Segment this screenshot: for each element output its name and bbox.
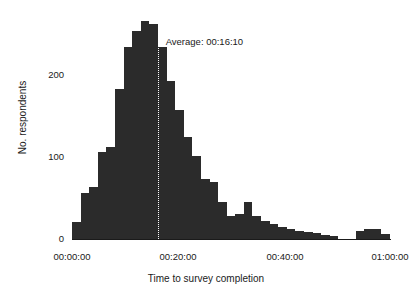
histogram-bar	[287, 229, 296, 239]
histogram-bar	[235, 214, 244, 239]
histogram-bar	[149, 24, 158, 239]
histogram-bar	[115, 89, 124, 239]
x-axis-line	[72, 239, 391, 240]
histogram-bar	[364, 229, 373, 239]
histogram-bar	[295, 231, 304, 239]
histogram-bar	[158, 47, 167, 239]
histogram-bar	[175, 110, 184, 239]
histogram-bar	[201, 179, 210, 239]
histogram-bar	[132, 31, 141, 239]
histogram-bar	[218, 202, 227, 239]
histogram-bar	[304, 232, 313, 239]
average-line	[158, 14, 159, 239]
histogram-bar	[167, 81, 176, 239]
histogram-chart: 200 100 0 No. respondents Average: 00:16…	[0, 0, 412, 297]
histogram-bar	[278, 227, 287, 240]
x-tick-2: 00:40:00	[267, 252, 304, 262]
y-tick-0: 0	[2, 234, 64, 244]
histogram-bars	[72, 14, 390, 239]
x-tick-3: 01:00:00	[372, 252, 409, 262]
histogram-bar	[210, 182, 219, 239]
histogram-bar	[98, 152, 107, 240]
x-tick-1: 00:20:00	[160, 252, 197, 262]
histogram-bar	[227, 216, 236, 239]
y-tick-100: 100	[2, 152, 64, 162]
histogram-bar	[72, 222, 81, 239]
plot-area	[72, 14, 390, 239]
histogram-bar	[81, 193, 90, 239]
histogram-bar	[252, 216, 261, 239]
histogram-bar	[89, 187, 98, 239]
y-axis-title: No. respondents	[17, 48, 28, 188]
x-axis-title: Time to survey completion	[0, 273, 412, 284]
histogram-bar	[192, 156, 201, 239]
histogram-bar	[356, 231, 365, 239]
histogram-bar	[373, 229, 382, 239]
y-tick-200: 200	[2, 70, 64, 80]
average-label: Average: 00:16:10	[166, 36, 243, 47]
histogram-bar	[184, 137, 193, 240]
histogram-bar	[270, 224, 279, 239]
histogram-bar	[261, 221, 270, 239]
histogram-bar	[141, 21, 150, 239]
histogram-bar	[244, 202, 253, 239]
histogram-bar	[124, 47, 133, 239]
histogram-bar	[106, 147, 115, 239]
x-tick-0: 00:00:00	[54, 252, 91, 262]
